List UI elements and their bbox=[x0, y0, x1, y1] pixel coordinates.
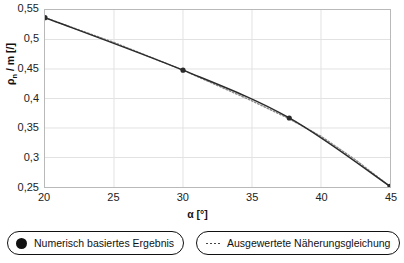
y-axis-title-symbol: ρ bbox=[4, 79, 16, 86]
x-axis-title: α [°] bbox=[0, 208, 395, 220]
x-axis-tick-label: 30 bbox=[165, 192, 201, 203]
approx-line bbox=[45, 18, 390, 187]
y-axis-tick-label: 0,35 bbox=[0, 122, 39, 133]
x-axis-tick-label: 25 bbox=[95, 192, 131, 203]
plot-area bbox=[44, 9, 391, 188]
x-axis-tick-label: 40 bbox=[304, 192, 340, 203]
chart-legend: Numerisch basiertes Ergebnis Ausgewertet… bbox=[0, 231, 395, 259]
legend-label-numeric: Numerisch basiertes Ergebnis bbox=[34, 237, 174, 249]
data-point bbox=[287, 115, 292, 120]
y-axis-title: ρn / m [/] bbox=[4, 43, 16, 85]
series-ausgewertete-naeherungsgleichung bbox=[45, 18, 390, 187]
y-axis-title-tail: / m [/] bbox=[4, 43, 16, 74]
y-axis-title-wrapper: ρn / m [/] bbox=[0, 19, 14, 109]
x-axis-tick-label: 35 bbox=[234, 192, 270, 203]
legend-item-ausgewertete-naeherungsgleichung[interactable]: Ausgewertete Näherungsgleichung bbox=[196, 231, 400, 255]
plot-svg bbox=[45, 10, 390, 187]
data-point bbox=[180, 68, 185, 73]
y-axis-tick-label: 0,55 bbox=[0, 3, 39, 14]
numeric-data-points bbox=[45, 15, 390, 187]
data-point bbox=[45, 15, 48, 20]
legend-item-numerisch-basiertes-ergebnis[interactable]: Numerisch basiertes Ergebnis bbox=[7, 231, 184, 255]
dotted-line-marker-icon bbox=[205, 242, 220, 245]
y-axis-title-subscript: n bbox=[10, 74, 19, 79]
series-numerisch-basiertes-ergebnis bbox=[45, 15, 390, 187]
x-axis-tick-label: 45 bbox=[373, 192, 404, 203]
filled-circle-marker-icon bbox=[16, 238, 27, 249]
legend-label-approx: Ausgewertete Näherungsgleichung bbox=[227, 237, 390, 249]
y-axis-tick-label: 0,3 bbox=[0, 152, 39, 163]
numeric-line bbox=[45, 18, 390, 187]
x-axis-tick-label: 20 bbox=[26, 192, 62, 203]
